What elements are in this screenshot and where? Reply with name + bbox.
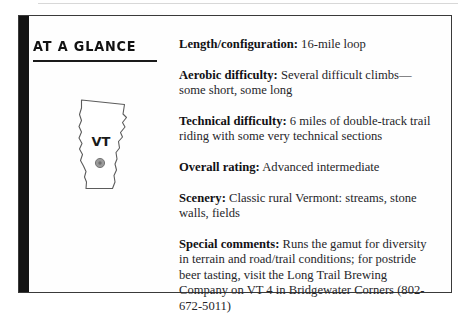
location-marker-center (98, 161, 101, 164)
state-abbreviation-label: VT (92, 134, 111, 149)
detail-label: Overall rating: (179, 160, 260, 174)
vermont-map-icon: VT (71, 96, 135, 200)
detail-label: Scenery: (179, 191, 226, 205)
detail-value: Advanced intermediate (260, 160, 380, 174)
left-accent-bar (19, 16, 29, 292)
detail-special-comments: Special comments: Runs the gamut for div… (179, 237, 437, 314)
detail-value: 16-mile loop (298, 37, 366, 51)
detail-label: Aerobic difficulty: (179, 68, 278, 82)
detail-length-configuration: Length/configuration: 16-mile loop (179, 37, 437, 52)
detail-scenery: Scenery: Classic rural Vermont: streams,… (179, 191, 437, 222)
at-a-glance-box: AT A GLANCE VT Length/configuration: 16-… (18, 15, 452, 293)
detail-label: Technical difficulty: (179, 114, 287, 128)
heading-column: AT A GLANCE VT (33, 16, 165, 292)
detail-aerobic-difficulty: Aerobic difficulty: Several difficult cl… (179, 68, 437, 99)
detail-label: Length/configuration: (179, 37, 298, 51)
page-title: AT A GLANCE (33, 38, 136, 54)
title-divider (33, 60, 157, 62)
detail-label: Special comments: (179, 237, 279, 251)
detail-technical-difficulty: Technical difficulty: 6 miles of double-… (179, 114, 437, 145)
scan-artifact-line (38, 3, 458, 4)
detail-overall-rating: Overall rating: Advanced intermediate (179, 160, 437, 175)
details-column: Length/configuration: 16-mile loop Aerob… (179, 16, 441, 292)
